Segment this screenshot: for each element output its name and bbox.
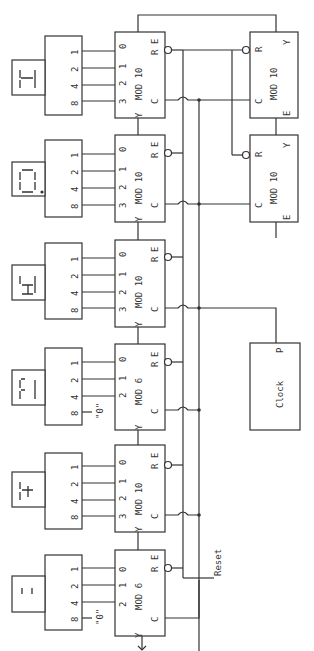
- svg-text:C: C: [150, 203, 160, 208]
- svg-text:1: 1: [70, 50, 80, 55]
- svg-text:R: R: [150, 152, 160, 158]
- svg-text:C: C: [150, 514, 160, 519]
- reset-label: Reset: [213, 549, 223, 576]
- svg-text:0: 0: [118, 252, 128, 257]
- svg-text:E: E: [150, 555, 160, 560]
- svg-text:R: R: [254, 46, 264, 52]
- counter-column-6: 0 1 2 MOD 6 E R C Y 1 2 4 8 "0": [12, 550, 199, 638]
- svg-text:3: 3: [118, 203, 128, 208]
- svg-text:Y: Y: [134, 216, 144, 222]
- prescaler-1: R C Y E MOD 10: [243, 32, 299, 118]
- svg-text:1: 1: [118, 167, 128, 172]
- svg-text:2: 2: [70, 584, 80, 589]
- svg-text:MOD 10: MOD 10: [134, 275, 144, 308]
- svg-text:1: 1: [118, 583, 128, 588]
- svg-text:C: C: [150, 99, 160, 104]
- svg-text:Y: Y: [134, 424, 144, 430]
- svg-text:R: R: [254, 151, 264, 157]
- counter-column-4: 0 1 2 MOD 6 E R C Y 1 2 4 8 "0": [12, 344, 199, 430]
- svg-text:1: 1: [70, 567, 80, 572]
- svg-text:2: 2: [70, 274, 80, 279]
- svg-text:C: C: [254, 99, 264, 104]
- svg-text:R: R: [150, 49, 160, 55]
- svg-text:0: 0: [118, 460, 128, 465]
- svg-text:0: 0: [118, 357, 128, 362]
- counter-column-3: 0 1 2 3 MOD 10 E R C Y 1 2 4 8: [12, 240, 199, 327]
- svg-text:R: R: [150, 566, 160, 572]
- svg-text:E: E: [282, 111, 292, 116]
- svg-text:Y: Y: [282, 142, 292, 148]
- svg-text:0: 0: [118, 147, 128, 152]
- svg-text:4: 4: [70, 499, 80, 504]
- svg-text:2: 2: [70, 170, 80, 175]
- svg-text:8: 8: [70, 101, 80, 106]
- svg-text:4: 4: [70, 84, 80, 89]
- svg-text:8: 8: [70, 204, 80, 209]
- svg-text:1: 1: [118, 376, 128, 381]
- counter-column-5: 0 1 2 3 MOD 10 E R C Y 1 2 4 8: [12, 445, 199, 532]
- svg-text:Y: Y: [282, 39, 292, 45]
- svg-text:8: 8: [70, 411, 80, 416]
- svg-text:MOD 6: MOD 6: [134, 378, 144, 405]
- svg-text:E: E: [150, 39, 160, 44]
- svg-text:2: 2: [118, 393, 128, 398]
- svg-text:E: E: [150, 142, 160, 147]
- svg-text:8: 8: [70, 515, 80, 520]
- svg-text:C: C: [150, 409, 160, 414]
- svg-text:R: R: [150, 361, 160, 367]
- svg-text:"0": "0": [95, 403, 105, 419]
- svg-text:E: E: [282, 215, 292, 220]
- clock-output-wire: [199, 308, 276, 343]
- svg-text:MOD 10: MOD 10: [269, 67, 279, 100]
- svg-text:1: 1: [118, 272, 128, 277]
- svg-text:P: P: [275, 347, 285, 353]
- svg-text:4: 4: [70, 291, 80, 296]
- svg-text:2: 2: [118, 185, 128, 190]
- svg-text:1: 1: [118, 479, 128, 484]
- svg-text:C: C: [254, 203, 264, 208]
- svg-text:2: 2: [118, 81, 128, 86]
- svg-text:R: R: [150, 256, 160, 262]
- svg-text:MOD 10: MOD 10: [134, 171, 144, 204]
- svg-text:Clock: Clock: [275, 380, 285, 408]
- svg-text:E: E: [150, 453, 160, 458]
- svg-text:4: 4: [70, 187, 80, 192]
- svg-text:1: 1: [70, 257, 80, 262]
- svg-text:8: 8: [70, 617, 80, 622]
- svg-text:1: 1: [70, 153, 80, 158]
- prescaler-2: R C Y E MOD 10: [243, 135, 299, 222]
- svg-text:2: 2: [118, 290, 128, 295]
- svg-text:3: 3: [118, 307, 128, 312]
- svg-text:MOD 6: MOD 6: [134, 583, 144, 610]
- svg-text:E: E: [150, 247, 160, 252]
- svg-text:2: 2: [70, 482, 80, 487]
- svg-text:"0": "0": [95, 609, 105, 625]
- svg-text:1: 1: [70, 361, 80, 366]
- svg-text:2: 2: [70, 378, 80, 383]
- svg-text:1: 1: [118, 64, 128, 69]
- svg-text:4: 4: [70, 395, 80, 400]
- counter-column-1: 0 1 2 3 MOD 10 E R C Y 1 2 4 8: [12, 32, 199, 118]
- svg-text:2: 2: [118, 602, 128, 607]
- svg-text:0: 0: [118, 567, 128, 572]
- feedback-wire: [138, 15, 276, 32]
- svg-text:8: 8: [70, 308, 80, 313]
- clock-block: P Clock: [250, 343, 300, 430]
- svg-text:2: 2: [118, 496, 128, 501]
- svg-text:4: 4: [70, 601, 80, 606]
- svg-text:2: 2: [70, 67, 80, 72]
- svg-text:1: 1: [70, 465, 80, 470]
- circuit-diagram: R C Y E MOD 10 R C Y E MOD 10 P Clock Re…: [0, 0, 314, 651]
- svg-text:Y: Y: [134, 321, 144, 327]
- svg-text:3: 3: [118, 514, 128, 519]
- svg-text:Y: Y: [134, 526, 144, 532]
- svg-text:Y: Y: [134, 112, 144, 118]
- svg-text:3: 3: [118, 99, 128, 104]
- svg-text:C: C: [150, 307, 160, 312]
- svg-text:MOD 10: MOD 10: [134, 482, 144, 515]
- svg-text:R: R: [150, 463, 160, 469]
- counter-column-2: 0 1 2 3 MOD 10 E R C Y 1 2 4 8: [12, 135, 199, 222]
- svg-text:C: C: [150, 617, 160, 622]
- svg-text:MOD 10: MOD 10: [134, 67, 144, 100]
- svg-text:E: E: [150, 352, 160, 357]
